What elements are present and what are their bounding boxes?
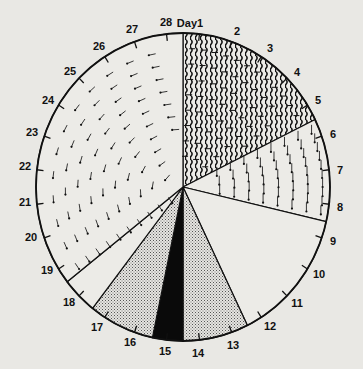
day-label: 9 — [330, 235, 336, 247]
day-label: 12 — [264, 320, 276, 332]
day-label: 26 — [93, 40, 105, 52]
day-label: 8 — [337, 201, 343, 213]
day-label: 22 — [19, 160, 31, 172]
day-label: 13 — [227, 339, 239, 351]
day-label: 20 — [25, 231, 37, 243]
day-tick-mark — [167, 333, 168, 340]
day-label: 11 — [291, 297, 303, 309]
day-label: 4 — [294, 66, 301, 78]
day-tick-mark — [323, 170, 330, 171]
day-label: 10 — [313, 268, 325, 280]
day-label: 2 — [234, 25, 240, 37]
cycle-wheel: Day1234567891011121314151617181920212223… — [0, 0, 363, 369]
day-label: 28 — [160, 16, 172, 28]
day-label: 6 — [330, 128, 336, 140]
day-tick-mark — [37, 203, 44, 204]
day-tick-mark — [37, 170, 44, 171]
day-label: 5 — [315, 94, 321, 106]
day-label: 23 — [26, 126, 38, 138]
day-label: 17 — [91, 321, 103, 333]
day-label: 15 — [159, 345, 171, 357]
day-label: 21 — [19, 196, 31, 208]
day-label: 18 — [63, 296, 75, 308]
menstrual-cycle-diagram: Day1234567891011121314151617181920212223… — [0, 0, 363, 369]
day-label: 16 — [124, 336, 136, 348]
day-label: 7 — [337, 164, 343, 176]
day-label: 27 — [126, 23, 138, 35]
day-label: 24 — [42, 94, 55, 106]
day-tick-mark — [199, 34, 200, 41]
day-label: 14 — [192, 347, 205, 359]
day-label: 19 — [41, 264, 53, 276]
day-tick-mark — [167, 34, 168, 41]
day-label: 25 — [64, 65, 76, 77]
day-tick-mark — [199, 333, 200, 340]
day-tick-mark — [323, 203, 330, 204]
day-label: 3 — [267, 42, 273, 54]
day-label: Day1 — [177, 17, 203, 29]
